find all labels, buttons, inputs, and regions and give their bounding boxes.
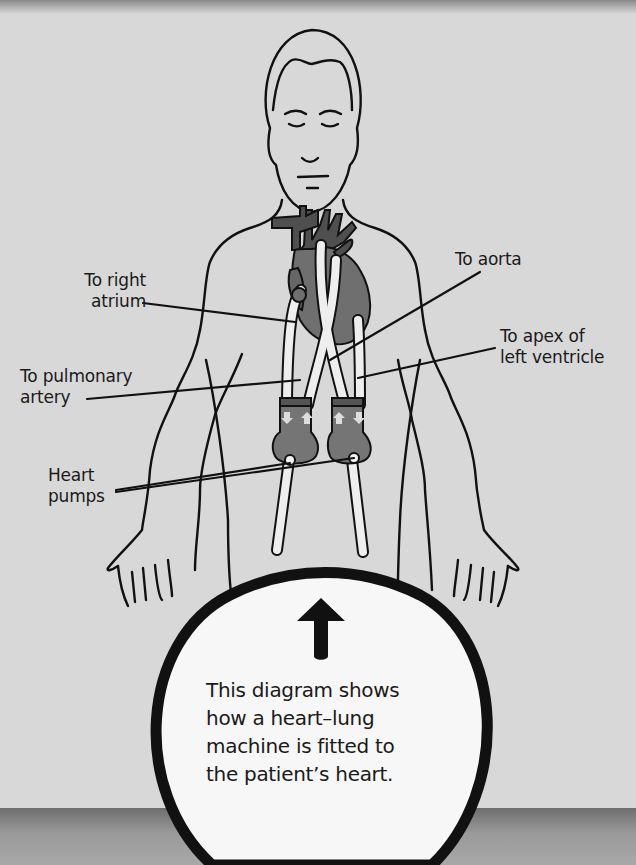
label-apex-left-ventricle: To apex of left ventricle [500,326,630,368]
head-outline [266,30,361,212]
callout-caption: This diagram shows how a heart–lung mach… [206,676,476,788]
label-pulmonary-artery: To pulmonary artery [20,366,132,408]
label-right-atrium: To right atrium [60,270,146,312]
label-heart-pumps: Heart pumps [48,465,105,507]
diagram-canvas: To right atrium To pulmonary artery Hear… [0,0,636,865]
label-aorta: To aorta [455,249,522,270]
heart-pumps [273,398,371,465]
